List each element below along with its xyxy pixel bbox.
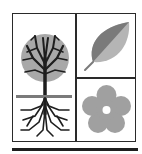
bottom-rule <box>12 148 138 151</box>
flower-icon <box>77 79 136 142</box>
leaf-icon <box>77 14 136 77</box>
tree-with-roots-icon <box>13 14 75 142</box>
